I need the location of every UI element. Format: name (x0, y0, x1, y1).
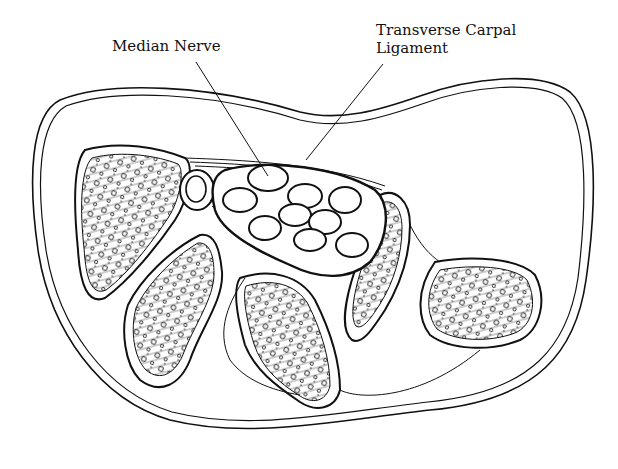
median-nerve (248, 165, 288, 191)
fcr-tendon (180, 170, 214, 210)
bone-capitate (236, 274, 340, 408)
wrist-cross-section-diagram (0, 0, 618, 469)
bone-pisiform (420, 258, 541, 347)
tcl-leader (306, 64, 383, 160)
